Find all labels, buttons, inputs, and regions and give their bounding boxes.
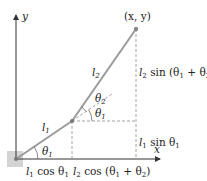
theta2-arc xyxy=(82,107,86,112)
l1-label: l1 xyxy=(42,121,50,135)
robot-arm-kinematics-diagram: y x (x, y) l2 l1 θ1 θ1 θ2 l1 cos θ1 l2 c… xyxy=(0,0,207,181)
y-axis-label: y xyxy=(21,10,29,22)
l1-cos-theta1-label: l1 cos θ1 xyxy=(26,165,69,179)
end-effector-point xyxy=(134,27,138,31)
end-effector-label: (x, y) xyxy=(124,10,151,22)
theta1-elbow-arc xyxy=(89,110,92,121)
l2-cos-theta12-label: l2 cos (θ1 + θ2) xyxy=(73,165,150,179)
link-l2 xyxy=(72,29,136,121)
theta1-elbow-label: θ1 xyxy=(95,107,106,121)
shoulder-joint xyxy=(14,157,18,161)
elbow-joint xyxy=(70,119,74,123)
l1-sin-theta1-label: l1 sin θ1 xyxy=(139,136,180,150)
theta2-label: θ2 xyxy=(95,92,106,106)
theta1-base-label: θ1 xyxy=(42,145,53,159)
theta1-base-arc xyxy=(34,147,38,159)
dashed-l1-extension xyxy=(72,94,112,121)
l2-label: l2 xyxy=(92,66,100,80)
l2-sin-theta12-label: l2 sin (θ1 + θ2) xyxy=(139,66,207,80)
